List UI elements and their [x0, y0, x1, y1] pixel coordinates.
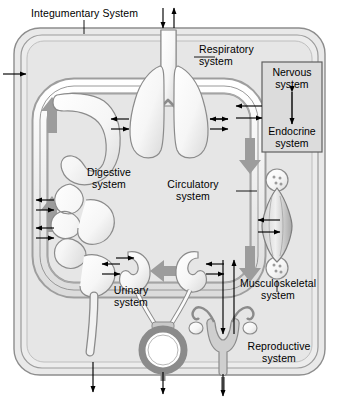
label-nervous-system: Nervous system	[262, 66, 322, 90]
label-circulatory-system: Circulatory system	[158, 179, 228, 202]
label-reproductive-system: Reproductive system	[240, 341, 318, 364]
label-respiratory-system: Respiratory system	[199, 44, 254, 67]
label-urinary-system: Urinary system	[101, 285, 161, 308]
label-endocrine-system: Endocrine system	[262, 125, 322, 149]
label-digestive-system: Digestive system	[76, 167, 142, 190]
label-musculoskeletal-system: Musculoskeletal system	[231, 278, 325, 301]
physiology-systems-diagram: Integumentary System Respiratory system …	[0, 0, 339, 401]
label-integumentary-system: Integumentary System	[31, 8, 138, 20]
